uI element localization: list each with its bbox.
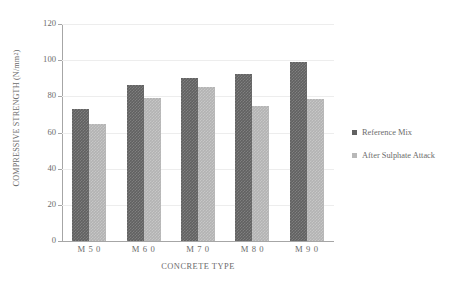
legend-swatch-icon: [352, 153, 357, 158]
x-axis-tick-labels: M 5 0M 6 0M 7 0M 8 0M 9 0: [62, 244, 334, 254]
y-axis-tick-label: 60: [26, 127, 56, 137]
bar[interactable]: [127, 85, 144, 241]
bar[interactable]: [72, 109, 89, 241]
legend-label: Reference Mix: [362, 128, 412, 137]
bar-group: [225, 24, 279, 241]
y-axis-title: COMPRESSIVE STRENGTH (N/mm2): [8, 0, 24, 236]
bar[interactable]: [235, 74, 252, 241]
y-axis-title-superscript: 2: [13, 52, 19, 55]
x-axis-tick-label: M 5 0: [62, 244, 116, 254]
x-axis-tick-label: M 8 0: [225, 244, 279, 254]
bar-group: [62, 24, 116, 241]
legend-label: After Sulphate Attack: [362, 151, 435, 160]
y-axis-tick-label: 120: [26, 18, 56, 28]
x-axis-line: [62, 241, 334, 242]
x-axis-title: CONCRETE TYPE: [62, 262, 334, 271]
y-axis-tick-label: 20: [26, 199, 56, 209]
bar-chart: COMPRESSIVE STRENGTH (N/mm2) 12010080604…: [0, 0, 465, 284]
x-axis-tick-label: M 7 0: [171, 244, 225, 254]
chart-legend: Reference Mix After Sulphate Attack: [352, 128, 435, 160]
bar[interactable]: [290, 62, 307, 241]
bar-groups: [62, 24, 334, 241]
y-axis-tick-label: 40: [26, 163, 56, 173]
bar[interactable]: [89, 124, 106, 241]
legend-item-after-sulphate-attack[interactable]: After Sulphate Attack: [352, 151, 435, 160]
legend-swatch-icon: [352, 130, 357, 135]
y-axis-tick-label: 0: [26, 235, 56, 245]
x-axis-tick-label: M 9 0: [280, 244, 334, 254]
x-axis-tick-label: M 6 0: [116, 244, 170, 254]
legend-item-reference-mix[interactable]: Reference Mix: [352, 128, 435, 137]
bar[interactable]: [198, 87, 215, 241]
y-axis-tick-label: 100: [26, 54, 56, 64]
bar[interactable]: [181, 78, 198, 241]
bar-group: [280, 24, 334, 241]
bar[interactable]: [144, 98, 161, 241]
y-axis-tick-label: 80: [26, 90, 56, 100]
bar[interactable]: [252, 106, 269, 241]
bar[interactable]: [307, 99, 324, 241]
y-axis-title-text: COMPRESSIVE STRENGTH (N/mm: [12, 56, 21, 187]
bar-group: [116, 24, 170, 241]
bar-group: [171, 24, 225, 241]
y-axis-tick: [58, 241, 62, 242]
y-axis-title-paren: ): [12, 50, 21, 53]
plot-area: [62, 24, 334, 241]
